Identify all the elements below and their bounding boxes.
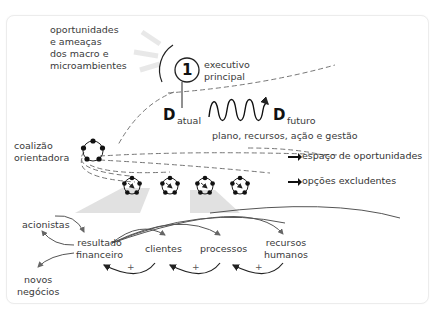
financial-line-2: financeiro bbox=[76, 249, 123, 261]
coalition-pentagon-icon bbox=[81, 138, 105, 161]
flow-curves bbox=[112, 207, 400, 243]
shareholders-label: acionistas bbox=[22, 219, 70, 231]
hr-line-1: recursos bbox=[264, 237, 308, 249]
d-future-letter: D bbox=[273, 106, 285, 124]
environment-line-4: microambientes bbox=[50, 60, 127, 72]
plus-sign-3: + bbox=[255, 262, 263, 272]
legend-exclusive-text: opções excludentes bbox=[302, 175, 396, 186]
shareholders-return-arrow bbox=[42, 231, 74, 245]
legend-opportunity-space: espaço de oportunidades bbox=[288, 150, 422, 161]
environment-line-1: oportunidades bbox=[50, 24, 127, 36]
environment-line-2: e ameaças bbox=[50, 36, 127, 48]
new-business-line-1: novos bbox=[17, 274, 59, 286]
leader-label-line-2: principal bbox=[204, 71, 250, 83]
legend-opportunity-text: espaço de oportunidades bbox=[302, 150, 422, 161]
means-label: plano, recursos, ação e gestão bbox=[212, 130, 358, 142]
shaded-options bbox=[75, 188, 240, 213]
environment-arrows-icon bbox=[134, 32, 160, 70]
leader-label-line-1: executivo bbox=[204, 59, 250, 71]
financial-line-1: resultado bbox=[76, 237, 123, 249]
right-arrow-icon bbox=[288, 156, 299, 158]
wave-icon bbox=[209, 100, 268, 121]
leader-number: 1 bbox=[182, 61, 192, 79]
plus-sign-1: + bbox=[127, 262, 135, 272]
coalition-label: coalizão orientadora bbox=[14, 140, 69, 164]
hr-line-2: humanos bbox=[264, 249, 308, 261]
human-resources-label: recursos humanos bbox=[264, 237, 308, 261]
legend-exclusive-options: opções excludentes bbox=[288, 175, 396, 186]
environment-label: oportunidades e ameaças dos macro e micr… bbox=[50, 24, 127, 72]
coalition-line-1: coalizão bbox=[14, 140, 69, 152]
environment-line-3: dos macro e bbox=[50, 48, 127, 60]
coalition-line-2: orientadora bbox=[14, 152, 69, 164]
new-business-line-2: negócios bbox=[17, 286, 59, 298]
leader-arc bbox=[160, 45, 173, 82]
processes-label: processos bbox=[200, 243, 247, 255]
leader-label: executivo principal bbox=[204, 59, 250, 83]
plus-sign-2: + bbox=[192, 262, 200, 272]
financial-result-label: resultado financeiro bbox=[76, 237, 123, 261]
new-business-arrow bbox=[38, 253, 74, 267]
new-business-label: novos negócios bbox=[17, 274, 59, 298]
d-current-sub: atual bbox=[177, 115, 201, 126]
clients-label: clientes bbox=[145, 243, 182, 255]
right-arrow-icon bbox=[288, 181, 299, 183]
d-future-sub: futuro bbox=[287, 115, 316, 126]
d-current-letter: D bbox=[163, 106, 175, 124]
